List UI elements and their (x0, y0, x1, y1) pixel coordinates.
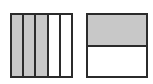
shaded-part (34, 15, 46, 76)
unshaded-part (47, 15, 59, 76)
shaded-part (12, 15, 22, 76)
fraction-square-one-half (86, 13, 148, 78)
fraction-square-three-fifths (10, 13, 73, 78)
shaded-part (22, 15, 34, 76)
shaded-part (88, 15, 146, 45)
unshaded-part (59, 15, 71, 76)
unshaded-part (88, 45, 146, 77)
